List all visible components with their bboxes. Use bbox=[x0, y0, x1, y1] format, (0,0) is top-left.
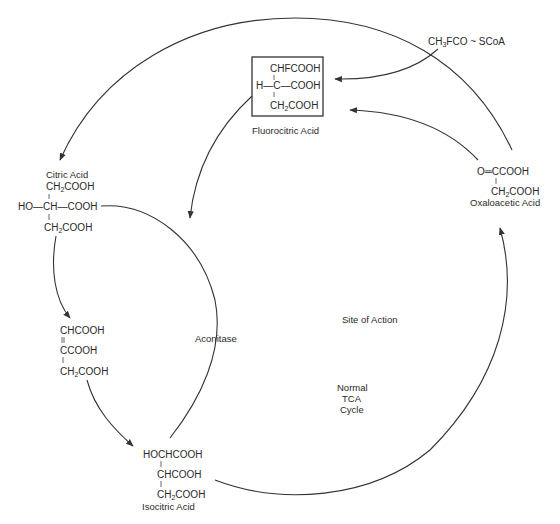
reagent-acetyl-coa: CH3FCO ~ SCoA bbox=[428, 36, 505, 48]
cycle-label-line3: Cycle bbox=[340, 404, 364, 415]
arrow-cisaconitic-to-isocitric bbox=[87, 380, 133, 446]
isocitric-acid-label: Isocitric Acid bbox=[142, 501, 195, 512]
fluorocitric-acid-label: Fluorocitric Acid bbox=[252, 125, 319, 136]
citric-line2: HO—CH—COOH bbox=[18, 201, 97, 212]
tca-cycle-diagram: CH3FCO ~ SCoA CHFCOOH H—C—COOH CH2COOH F… bbox=[0, 0, 560, 524]
citric-line3: CH2COOH bbox=[44, 222, 92, 234]
citric-line1: CH2COOH bbox=[46, 181, 94, 193]
arrow-isocitric-to-oxaloacetic bbox=[215, 228, 507, 495]
arrow-fluorocitric-to-aconitase bbox=[190, 96, 252, 218]
fluorocitric-line1: CHFCOOH bbox=[270, 63, 321, 74]
isocitric-line2: CHCOOH bbox=[157, 469, 201, 480]
cisaconitic-line2: CCOOH bbox=[60, 345, 97, 356]
citric-acid-label: Citric Acid bbox=[46, 169, 88, 180]
cycle-label-line2: TCA bbox=[342, 393, 362, 404]
arrow-oxaloacetic-to-fluorocitric bbox=[350, 110, 478, 160]
site-of-action-label: Site of Action bbox=[342, 314, 397, 325]
arrow-reagent-to-fluorocitric bbox=[335, 49, 438, 79]
fluorocitric-line3: CH2COOH bbox=[270, 100, 318, 112]
arrow-citric-to-cisaconitic bbox=[54, 236, 70, 318]
arrow-aconitase-curve bbox=[101, 206, 217, 438]
isocitric-line1: HOCHCOOH bbox=[143, 449, 202, 460]
aconitase-label: Aconitase bbox=[195, 333, 237, 344]
oxaloacetic-line1: O═CCOOH bbox=[477, 166, 529, 177]
fluorocitric-line2: H—C—COOH bbox=[256, 80, 320, 91]
cycle-label-line1: Normal bbox=[337, 382, 368, 393]
isocitric-line3: CH2COOH bbox=[157, 489, 205, 501]
oxaloacetic-acid-label: Oxaloacetic Acid bbox=[470, 197, 540, 208]
cisaconitic-line1: CHCOOH bbox=[60, 325, 104, 336]
cisaconitic-line3: CH2COOH bbox=[60, 366, 108, 378]
